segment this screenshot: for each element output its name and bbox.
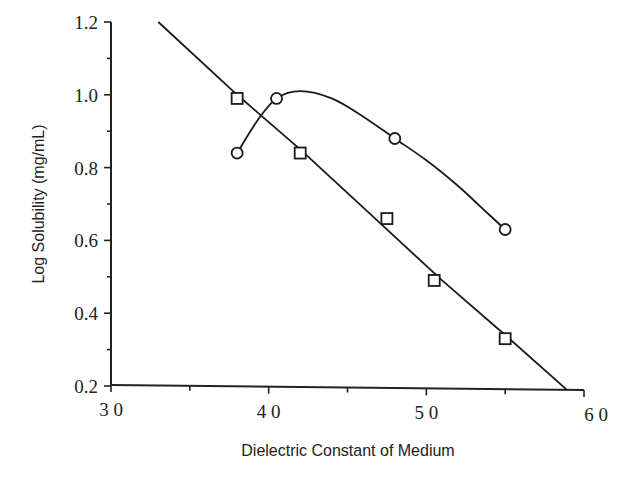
square-marker [500,333,511,344]
axes [111,22,584,390]
square-marker [429,275,440,286]
circle-marker [500,224,511,235]
x-tick-label: 4 0 [257,401,281,422]
y-tick-label: 1.2 [74,12,98,33]
y-axis-title: Log Solubility (mg/mL) [30,124,47,283]
circle-marker [389,133,400,144]
x-tick-label: 5 0 [414,402,438,423]
square-marker [295,148,306,159]
x-axis-ticks: 3 04 05 06 0 [99,375,608,425]
y-tick-label: 1.0 [74,85,98,106]
circle-marker [232,148,243,159]
solubility-chart: 0.20.40.60.81.01.2 3 04 05 06 0 Dielectr… [0,0,621,492]
x-axis-title: Dielectric Constant of Medium [241,442,454,459]
series-layer [158,22,566,390]
circle-marker [271,93,282,104]
y-tick-label: 0.6 [74,230,98,251]
circles-fit-line [237,91,505,229]
y-tick-label: 0.8 [74,158,98,179]
y-tick-label: 0.2 [74,376,98,397]
square-marker [381,213,392,224]
y-tick-label: 0.4 [74,303,98,324]
square-marker [232,93,243,104]
x-tick-label: 6 0 [584,404,608,425]
y-axis-ticks: 0.20.40.60.81.01.2 [74,12,111,397]
x-tick-label: 3 0 [99,399,123,420]
